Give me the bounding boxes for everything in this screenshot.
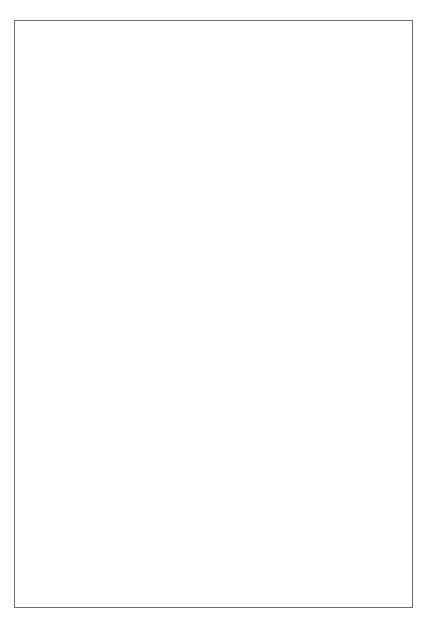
bottom-chart-svg	[15, 321, 414, 601]
top-chart-svg	[15, 49, 414, 309]
figure-frame	[14, 20, 413, 608]
bottom-panel	[15, 321, 414, 601]
top-panel	[15, 49, 414, 309]
